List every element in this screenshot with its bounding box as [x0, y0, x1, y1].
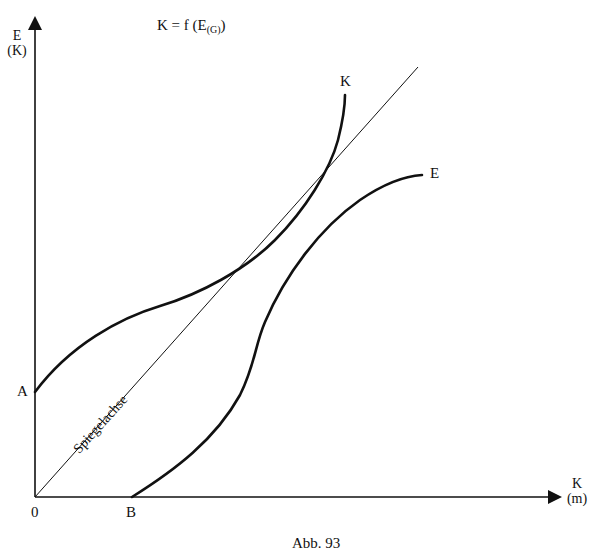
point-a-label: A: [17, 384, 28, 399]
figure-caption: Abb. 93: [292, 536, 340, 549]
origin-label: 0: [31, 505, 39, 520]
y-axis-label-main: E: [2, 28, 32, 43]
curve-e-label: E: [430, 166, 439, 181]
diagram-canvas: [0, 0, 593, 549]
curve-k: [35, 95, 345, 392]
y-axis-label-unit: (K): [2, 43, 32, 58]
curve-k-label: K: [340, 74, 351, 89]
x-axis-label-unit: (m): [562, 491, 592, 506]
chart-title: K = f (E(G)): [157, 18, 226, 35]
x-axis-label: K (m): [562, 476, 592, 506]
title-suffix: ): [221, 17, 226, 33]
point-b-label: B: [126, 505, 136, 520]
x-axis-arrow-icon: [548, 490, 562, 504]
title-prefix: K = f (E: [157, 17, 207, 33]
x-axis-label-main: K: [562, 476, 592, 491]
y-axis-label: E (K): [2, 28, 32, 58]
title-subscript: (G): [207, 24, 221, 35]
curve-e: [132, 175, 422, 497]
